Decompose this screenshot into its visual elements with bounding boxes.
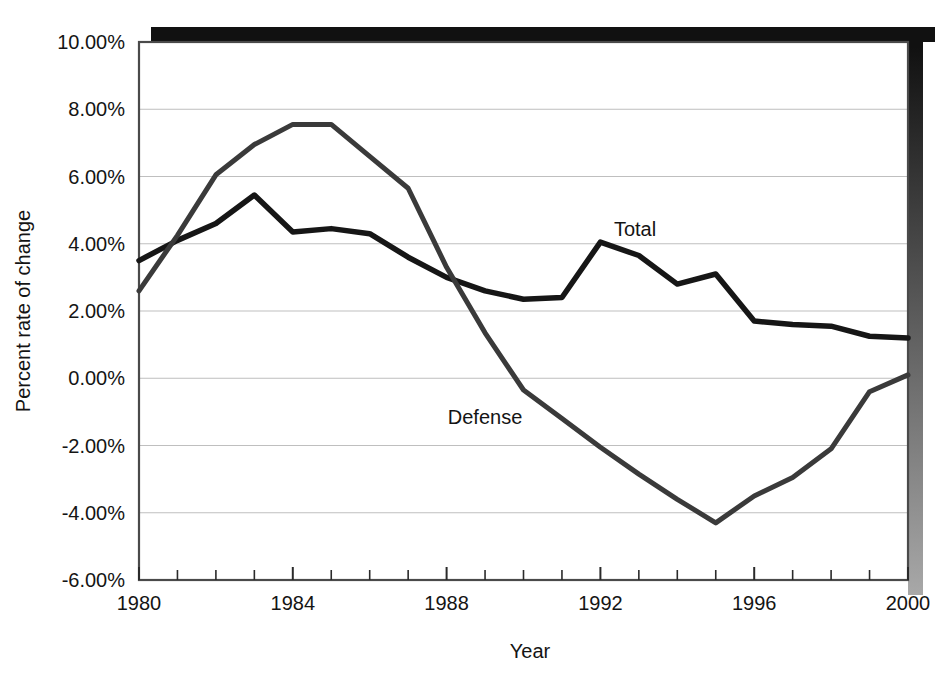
y-tick-label: -2.00% bbox=[62, 435, 126, 457]
x-tick-label: 1996 bbox=[732, 592, 777, 614]
y-tick-label: 2.00% bbox=[68, 300, 125, 322]
y-axis-title: Percent rate of change bbox=[12, 210, 34, 412]
y-tick-label: -6.00% bbox=[62, 569, 126, 591]
y-tick-label: 10.00% bbox=[57, 31, 125, 53]
y-tick-label: 0.00% bbox=[68, 367, 125, 389]
series-label-total: Total bbox=[614, 218, 656, 240]
x-tick-label: 1984 bbox=[271, 592, 316, 614]
y-axis-tick-labels: -6.00%-4.00%-2.00%0.00%2.00%4.00%6.00%8.… bbox=[57, 31, 125, 591]
x-axis-tick-labels: 198019841988199219962000 bbox=[117, 592, 931, 614]
y-tick-label: 4.00% bbox=[68, 233, 125, 255]
y-tick-label: 8.00% bbox=[68, 98, 125, 120]
line-chart: -6.00%-4.00%-2.00%0.00%2.00%4.00%6.00%8.… bbox=[0, 0, 947, 673]
x-tick-label: 2000 bbox=[886, 592, 931, 614]
x-tick-label: 1980 bbox=[117, 592, 162, 614]
x-tick-label: 1988 bbox=[424, 592, 469, 614]
y-tick-label: -4.00% bbox=[62, 502, 126, 524]
series-label-defense: Defense bbox=[448, 406, 523, 428]
chart-figure: -6.00%-4.00%-2.00%0.00%2.00%4.00%6.00%8.… bbox=[0, 0, 947, 673]
x-tick-label: 1992 bbox=[578, 592, 623, 614]
y-tick-label: 6.00% bbox=[68, 166, 125, 188]
x-axis-title: Year bbox=[510, 640, 551, 662]
